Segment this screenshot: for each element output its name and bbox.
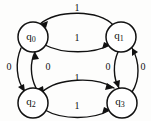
transition-q1-to-q3[interactable]: 0 <box>106 52 121 88</box>
state-node-q0[interactable]: q0 <box>18 22 48 52</box>
transition-q2-to-q3-inner[interactable]: 1 <box>42 72 114 92</box>
edge-label-q0-q1: 1 <box>75 32 80 43</box>
arrowhead-q1-q3 <box>113 80 120 88</box>
edge-label-q3-q1: 0 <box>141 61 146 72</box>
state-subscript-q3: 3 <box>121 100 125 109</box>
state-node-q2[interactable]: q2 <box>18 88 48 118</box>
state-node-q3[interactable]: q3 <box>107 88 137 118</box>
state-node-q1[interactable]: q1 <box>106 22 136 52</box>
edge-path-q0-q1 <box>45 45 110 52</box>
transition-q3-to-q1[interactable]: 0 <box>132 48 146 92</box>
transition-q0-to-q2[interactable]: 0 <box>7 48 26 92</box>
state-diagram-canvas: 1 1 0 0 0 0 <box>0 0 151 121</box>
edge-label-q1-q3: 0 <box>106 61 111 72</box>
transition-q1-to-q0[interactable]: 1 <box>40 2 113 28</box>
state-subscript-q0: 0 <box>32 35 36 44</box>
edge-label-q1-q0: 1 <box>75 2 80 13</box>
edge-label-q2-q0: 0 <box>46 61 51 72</box>
edge-label-q2-q3-inner: 1 <box>75 72 80 83</box>
transition-q2-to-q3-outer[interactable]: 1 <box>45 100 110 117</box>
transition-q2-to-q0[interactable]: 0 <box>31 52 50 88</box>
state-subscript-q2: 2 <box>32 100 36 109</box>
edge-label-q2-q3-outer: 1 <box>75 100 80 111</box>
transition-q0-to-q1[interactable]: 1 <box>45 32 110 51</box>
edge-path-q1-q0 <box>40 13 113 25</box>
automaton-svg: 1 1 0 0 0 0 <box>0 0 151 121</box>
state-subscript-q1: 1 <box>120 34 124 43</box>
edge-label-q0-q2: 0 <box>7 61 12 72</box>
